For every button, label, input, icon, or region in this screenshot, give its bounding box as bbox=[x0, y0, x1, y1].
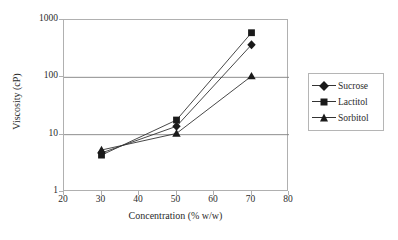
legend-label-sucrose: Sucrose bbox=[336, 80, 368, 92]
plot-area bbox=[63, 19, 288, 191]
x-tick-mark bbox=[63, 191, 64, 195]
data-series-layer bbox=[64, 20, 289, 192]
legend-key-triangle bbox=[312, 111, 336, 125]
x-tick-label: 80 bbox=[273, 194, 303, 205]
data-point-marker bbox=[172, 129, 180, 136]
data-point-marker bbox=[173, 117, 180, 124]
legend-key-diamond bbox=[312, 79, 336, 93]
y-axis-title: Viscosity (cP) bbox=[11, 42, 22, 162]
square-marker-icon bbox=[321, 99, 328, 106]
legend-label-sorbitol: Sorbitol bbox=[336, 112, 369, 124]
x-axis-title: Concentration (% w/w) bbox=[63, 210, 288, 221]
x-tick-label: 50 bbox=[161, 194, 191, 205]
data-point-marker bbox=[248, 29, 255, 36]
x-tick-label: 30 bbox=[86, 194, 116, 205]
legend-key-square bbox=[312, 95, 336, 109]
x-tick-mark bbox=[176, 191, 177, 195]
data-point-marker bbox=[247, 72, 255, 79]
legend-item: Lactitol bbox=[312, 94, 381, 110]
diamond-marker-icon bbox=[319, 81, 329, 91]
x-tick-label: 70 bbox=[236, 194, 266, 205]
x-tick-mark bbox=[213, 191, 214, 195]
legend-item: Sorbitol bbox=[312, 110, 381, 126]
chart-figure: 1101001000 Viscosity (cP) 20304050607080… bbox=[0, 0, 398, 240]
legend-label-lactitol: Lactitol bbox=[336, 96, 368, 108]
chart-legend: Sucrose Lactitol Sorbitol bbox=[308, 73, 384, 131]
x-tick-mark bbox=[288, 191, 289, 195]
x-tick-label: 20 bbox=[48, 194, 78, 205]
x-tick-label: 60 bbox=[198, 194, 228, 205]
triangle-marker-icon bbox=[320, 114, 328, 122]
series-line bbox=[102, 33, 252, 155]
x-tick-mark bbox=[138, 191, 139, 195]
x-tick-label: 40 bbox=[123, 194, 153, 205]
x-tick-mark bbox=[101, 191, 102, 195]
legend-item: Sucrose bbox=[312, 78, 381, 94]
y-tick-label: 1000 bbox=[0, 13, 64, 23]
series-sorbitol bbox=[97, 72, 255, 153]
x-tick-mark bbox=[251, 191, 252, 195]
series-sucrose bbox=[97, 40, 255, 157]
series-lactitol bbox=[98, 29, 255, 158]
series-line bbox=[102, 76, 252, 150]
series-line bbox=[102, 45, 252, 153]
